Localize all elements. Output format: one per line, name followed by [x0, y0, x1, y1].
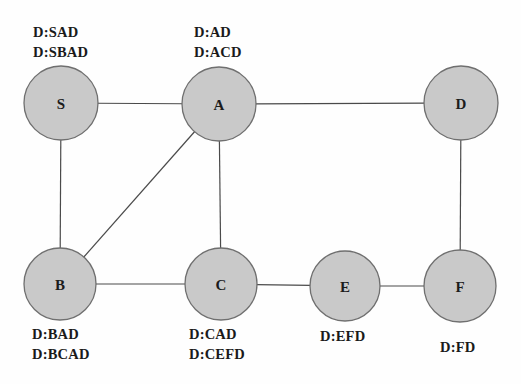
node-label-b: B: [55, 277, 65, 293]
node-s[interactable]: S: [24, 66, 98, 140]
edge-s-a: [97, 103, 183, 104]
annotation-a: D:ADD:ACD: [194, 22, 242, 62]
annotation-line: D:ACD: [194, 42, 242, 62]
node-label-c: C: [216, 277, 227, 293]
node-label-e: E: [340, 279, 350, 295]
annotation-line: D:FD: [440, 337, 475, 357]
annotation-e: D:EFD: [320, 326, 365, 346]
node-e[interactable]: E: [310, 251, 380, 321]
edge-a-b: [83, 131, 195, 258]
node-label-a: A: [214, 97, 225, 113]
annotation-line: D:SAD: [33, 22, 88, 42]
edge-f-d: [460, 139, 461, 251]
annotation-line: D:CAD: [189, 324, 245, 344]
edge-c-e: [256, 285, 311, 286]
node-label-d: D: [456, 96, 467, 112]
annotation-f: D:FD: [440, 337, 475, 357]
edge-a-c: [219, 140, 220, 249]
edges-group: [60, 103, 461, 286]
annotation-line: D:BCAD: [32, 344, 90, 364]
node-f[interactable]: F: [424, 250, 496, 322]
annotation-c: D:CADD:CEFD: [189, 324, 245, 364]
annotation-line: D:AD: [194, 22, 242, 42]
annotation-b: D:BADD:BCAD: [32, 324, 90, 364]
node-c[interactable]: C: [185, 248, 257, 320]
node-d[interactable]: D: [424, 66, 498, 140]
annotation-line: D:EFD: [320, 326, 365, 346]
graph-diagram-canvas: SADBCEF D:SADD:SBADD:ADD:ACDD:BADD:BCADD…: [0, 0, 521, 384]
node-label-f: F: [455, 279, 464, 295]
annotation-s: D:SADD:SBAD: [33, 22, 88, 62]
annotation-line: D:CEFD: [189, 344, 245, 364]
edge-a-d: [255, 103, 425, 104]
annotation-line: D:BAD: [32, 324, 90, 344]
node-b[interactable]: B: [24, 248, 96, 320]
edge-s-b: [60, 139, 61, 249]
annotation-line: D:SBAD: [33, 42, 88, 62]
node-a[interactable]: A: [182, 67, 256, 141]
node-label-s: S: [57, 96, 65, 112]
